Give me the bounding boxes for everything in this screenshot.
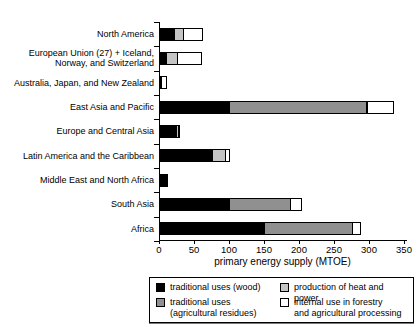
x-axis-title: primary energy supply (MTOE) — [159, 256, 406, 267]
category-label: Africa — [0, 217, 154, 241]
category-label: South Asia — [0, 192, 154, 216]
bar-segment — [367, 101, 394, 114]
bar-row — [160, 149, 230, 162]
legend-label: traditional uses (wood) — [170, 282, 261, 293]
legend-item: traditional uses (wood) — [156, 282, 272, 295]
x-tick-label: 50 — [179, 244, 209, 255]
y-tick-mark — [154, 119, 159, 120]
bar-row — [160, 198, 302, 211]
y-tick-mark — [154, 95, 159, 96]
y-tick-mark — [154, 192, 159, 193]
legend-item: production of heat and power — [280, 282, 408, 295]
bar-row — [160, 101, 394, 114]
y-tick-mark — [154, 168, 159, 169]
bar-segment — [160, 125, 177, 138]
bar-segment — [212, 149, 226, 162]
legend-box: traditional uses (wood)traditional uses(… — [149, 277, 414, 323]
bar-segment — [225, 149, 230, 162]
y-tick-mark — [154, 46, 159, 47]
bar-segment — [178, 125, 180, 138]
category-label: Middle East and North Africa — [0, 168, 154, 192]
bar-segment — [352, 222, 361, 235]
x-tick-label: 200 — [284, 244, 314, 255]
x-tick-label: 300 — [354, 244, 384, 255]
legend-item: internal use in forestryand agricultural… — [280, 297, 408, 320]
bar-segment — [229, 101, 367, 114]
y-tick-mark — [154, 22, 159, 23]
legend-swatch-icon — [156, 283, 165, 292]
bar-row — [160, 174, 168, 187]
legend-label: internal use in forestryand agricultural… — [294, 297, 402, 318]
category-label: North America — [0, 22, 154, 46]
x-tick-label: 150 — [249, 244, 279, 255]
y-tick-mark — [154, 217, 159, 218]
x-tick-label: 0 — [144, 244, 174, 255]
bar-segment — [160, 149, 213, 162]
bar-segment — [264, 222, 353, 235]
bar-segment — [290, 198, 302, 211]
bar-row — [160, 222, 361, 235]
category-label: European Union (27) + Iceland, Norway, a… — [0, 46, 154, 70]
bar-segment — [177, 52, 202, 65]
bar-row — [160, 52, 202, 65]
bar-segment — [229, 198, 291, 211]
x-tick-label: 350 — [389, 244, 419, 255]
bar-segment — [160, 174, 168, 187]
legend-swatch-icon — [156, 298, 165, 307]
bar-segment — [160, 198, 230, 211]
legend-label: traditional uses(agricultural residues) — [170, 297, 257, 318]
bar-segment — [160, 222, 265, 235]
legend-swatch-icon — [280, 283, 289, 292]
stacked-bar-chart: North AmericaEuropean Union (27) + Icela… — [0, 0, 419, 327]
category-label: Latin America and the Caribbean — [0, 144, 154, 168]
legend-item: traditional uses(agricultural residues) — [156, 297, 272, 320]
bar-row — [160, 125, 180, 138]
x-tick-label: 100 — [214, 244, 244, 255]
y-tick-mark — [154, 144, 159, 145]
bar-segment — [161, 76, 167, 89]
bar-segment — [160, 101, 230, 114]
y-tick-mark — [154, 71, 159, 72]
x-tick-label: 250 — [319, 244, 349, 255]
category-label: Australia, Japan, and New Zealand — [0, 71, 154, 95]
legend-swatch-icon — [280, 298, 289, 307]
category-label: East Asia and Pacific — [0, 95, 154, 119]
bar-segment — [160, 28, 175, 41]
bar-segment — [183, 28, 203, 41]
bar-row — [160, 76, 167, 89]
category-label: Europe and Central Asia — [0, 119, 154, 143]
bar-row — [160, 28, 203, 41]
